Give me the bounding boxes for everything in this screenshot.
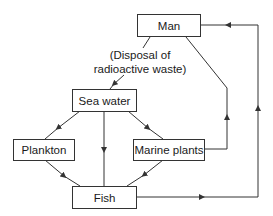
node-sea-water-label: Sea water [79, 95, 131, 107]
disposal-annotation: (Disposal of radioactive waste) [88, 48, 192, 76]
node-man-label: Man [158, 20, 180, 32]
node-fish: Fish [72, 186, 137, 209]
node-marine-plants: Marine plants [133, 139, 205, 161]
node-man: Man [137, 14, 201, 37]
annotation-line-1: (Disposal of [88, 48, 192, 62]
node-marine-plants-label: Marine plants [134, 144, 203, 156]
node-plankton: Plankton [13, 139, 75, 161]
annotation-line-2: radioactive waste) [88, 62, 192, 76]
node-plankton-label: Plankton [22, 144, 67, 156]
node-sea-water: Sea water [72, 89, 137, 112]
edge-man-disposal-top [143, 37, 150, 48]
node-fish-label: Fish [94, 192, 116, 204]
